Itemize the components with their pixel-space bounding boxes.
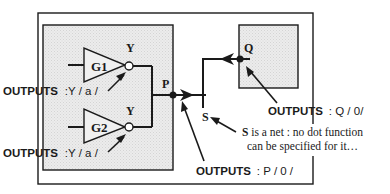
q-outputs-annotation: OUTPUTS : Q / 0/ [268, 105, 364, 117]
gate-g1-pin-label: Y [126, 41, 135, 55]
pin-q-label: Q [244, 41, 253, 55]
left-subblock [43, 25, 173, 170]
gate-g1-label: G1 [91, 59, 108, 74]
pin-p-dot-icon [170, 92, 177, 99]
schematic-diagram: G1 Y G2 Y P Q S [0, 0, 390, 194]
inverter-bubble-icon [125, 123, 133, 131]
g2-outputs-annotation: OUTPUTS :Y / a / [3, 147, 99, 159]
pin-q-dot-icon [237, 56, 244, 63]
p-outputs-annotation: OUTPUTS : P / 0 / [196, 165, 294, 177]
inverter-bubble-icon [125, 62, 133, 70]
pin-p-label: P [162, 77, 169, 91]
net-s-label: S [202, 110, 209, 124]
right-subblock [239, 25, 298, 88]
gate-g2-label: G2 [91, 120, 108, 135]
net-note-line2: can be specified for it… [247, 140, 358, 153]
g1-outputs-annotation: OUTPUTS :Y / a / [3, 85, 99, 97]
net-note-line1: S is a net : no dot function [242, 126, 363, 138]
gate-g2-pin-label: Y [126, 104, 135, 118]
